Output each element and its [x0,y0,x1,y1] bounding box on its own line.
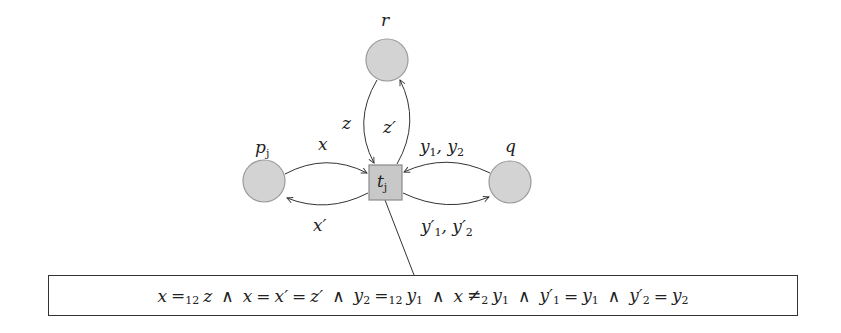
f-and-3: ∧ [432,286,444,306]
f-y1-c: y1 [582,285,599,307]
f-neq2: ≠2 [467,285,488,307]
f-x3: x [454,286,464,306]
label-y1-y2-prime: y′1, y′2 [420,216,473,239]
label-pj: pj [255,137,269,160]
f-and-1: ∧ [221,286,233,306]
f-eq12: =12 [171,285,199,307]
f-and-2: ∧ [332,286,344,306]
formula-connector-line [385,200,414,275]
label-z: z [341,113,352,133]
f-eq-b: = [292,286,306,306]
place-r [366,39,408,81]
label-q: q [505,136,516,156]
label-r: r [381,10,390,30]
label-x: x [318,134,328,154]
f-eq-c: = [564,286,578,306]
edge-tj-to-r [397,80,410,164]
f-y2: y2 [354,285,371,307]
label-x-prime: x′ [313,215,327,235]
f-z: z [203,286,212,306]
f-y2-prime: y′2 [629,285,649,307]
f-eq: = [256,286,270,306]
edge-tj-to-pj [287,193,368,205]
f-y2-b: y2 [672,285,689,307]
f-eq-d: = [654,286,668,306]
f-x: x [157,286,167,306]
place-pj [243,160,285,202]
label-z-prime: z′ [382,117,396,137]
edge-pj-to-tj [285,163,367,174]
transition-guard-formula: x =12 z ∧ x = x′ = z′ ∧ y2 =12 y1 ∧ x ≠2… [48,275,798,316]
f-and-4: ∧ [518,286,530,306]
f-and-5: ∧ [608,286,620,306]
f-y1-b: y1 [492,285,509,307]
f-eq12-b: =12 [374,285,402,307]
edge-tj-to-q [403,193,489,205]
edge-q-to-tj [404,162,490,173]
f-y1-prime: y′1 [539,285,559,307]
place-q [489,161,531,203]
f-x2: x [243,286,253,306]
edge-r-to-tj [364,80,377,163]
f-z-prime: z′ [310,286,323,306]
f-y1: y1 [406,285,423,307]
label-y1-y2: y1, y2 [419,136,464,159]
f-x-prime: x′ [275,286,288,306]
